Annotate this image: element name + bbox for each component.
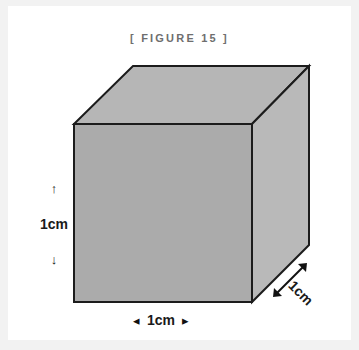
arrow-right-icon: ▸ xyxy=(182,314,189,327)
height-dimension-label: 1cm xyxy=(40,217,68,231)
width-dimension-label: 1cm xyxy=(147,313,175,327)
arrow-down-icon: ↓ xyxy=(51,253,58,266)
cube-front-face xyxy=(74,124,252,302)
figure-card: [ FIGURE 15 ] ↑ 1cm ↓ ◂ 1cm ▸ xyxy=(8,6,351,340)
width-dimension-group: ◂ 1cm ▸ xyxy=(101,313,221,327)
arrow-left-icon: ◂ xyxy=(133,314,140,327)
arrow-up-icon: ↑ xyxy=(51,182,58,195)
height-dimension-group: ↑ 1cm ↓ xyxy=(26,182,82,266)
cube-illustration: ↑ 1cm ↓ ◂ 1cm ▸ 1cm xyxy=(8,6,351,340)
